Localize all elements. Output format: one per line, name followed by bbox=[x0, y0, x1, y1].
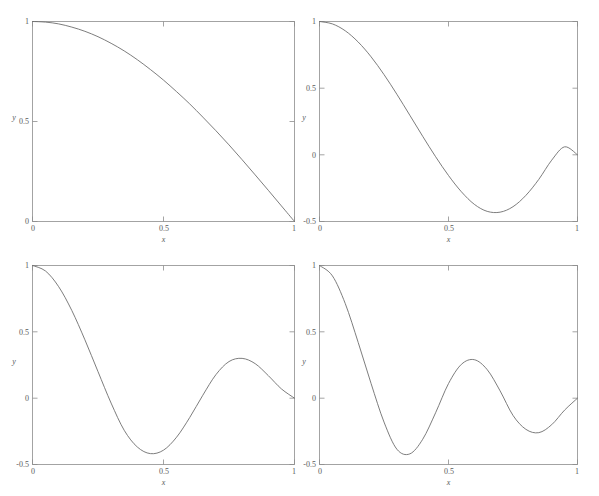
x-tick-label: 1 bbox=[575, 224, 579, 233]
y-tick-label: -0.5 bbox=[303, 460, 316, 469]
x-tick-label: 0 bbox=[318, 224, 322, 233]
y-tick-label: 1 bbox=[25, 17, 29, 26]
plot-svg-bottom-left: 1 0.5 0 -0.5 0 0.5 1 x y bbox=[0, 248, 299, 496]
x-tick-label: 1 bbox=[292, 224, 296, 233]
axes-frame bbox=[33, 22, 295, 222]
x-axis-label: x bbox=[446, 235, 451, 244]
x-tick-marks bbox=[320, 266, 578, 465]
data-curve bbox=[33, 266, 295, 454]
data-curve bbox=[320, 266, 578, 455]
y-tick-label: 0 bbox=[312, 394, 316, 403]
y-tick-marks bbox=[33, 22, 295, 222]
plot-svg-top-right: 1 0.5 0 -0.5 0 0.5 1 x y bbox=[299, 0, 599, 248]
y-axis-label: y bbox=[301, 113, 306, 122]
y-tick-label: 0 bbox=[25, 217, 29, 226]
x-tick-marks bbox=[33, 266, 295, 465]
y-tick-labels: 1 0.5 0 bbox=[19, 17, 29, 226]
plot-svg-top-left: 1 0.5 0 0 0.5 1 x y bbox=[0, 0, 299, 248]
axes-frame bbox=[320, 266, 578, 465]
x-tick-label: 0.5 bbox=[444, 224, 454, 233]
data-curve bbox=[320, 22, 578, 213]
data-curve bbox=[33, 22, 295, 222]
x-tick-marks bbox=[33, 22, 295, 222]
y-tick-label: 1 bbox=[312, 17, 316, 26]
x-tick-labels: 0 0.5 1 bbox=[318, 224, 579, 233]
x-tick-marks bbox=[320, 22, 578, 222]
y-tick-label: 0.5 bbox=[306, 84, 316, 93]
y-tick-marks bbox=[320, 266, 578, 465]
plot-svg-bottom-right: 1 0.5 0 -0.5 0 0.5 1 x y bbox=[299, 248, 599, 496]
plot-grid: 1 0.5 0 0 0.5 1 x y bbox=[0, 0, 599, 496]
x-tick-label: 0 bbox=[318, 467, 322, 476]
y-axis-label: y bbox=[11, 113, 16, 122]
y-axis-label: y bbox=[301, 357, 306, 366]
x-tick-labels: 0 0.5 1 bbox=[318, 467, 579, 476]
x-tick-label: 1 bbox=[292, 467, 296, 476]
y-tick-label: 0 bbox=[312, 151, 316, 160]
figure-canvas: { "figure": { "background_color": "#ffff… bbox=[0, 0, 599, 496]
panel-top-left: 1 0.5 0 0 0.5 1 x y bbox=[0, 0, 299, 248]
x-axis-label: x bbox=[161, 478, 166, 487]
y-tick-labels: 1 0.5 0 -0.5 bbox=[16, 261, 29, 469]
x-tick-label: 0.5 bbox=[159, 467, 169, 476]
x-tick-label: 0.5 bbox=[444, 467, 454, 476]
y-tick-label: 0.5 bbox=[306, 328, 316, 337]
axes-frame bbox=[33, 266, 295, 465]
x-tick-label: 0 bbox=[31, 467, 35, 476]
panel-top-right: 1 0.5 0 -0.5 0 0.5 1 x y bbox=[299, 0, 599, 248]
axes-frame bbox=[320, 22, 578, 222]
x-tick-label: 0 bbox=[31, 224, 35, 233]
y-tick-label: -0.5 bbox=[303, 217, 316, 226]
panel-bottom-left: 1 0.5 0 -0.5 0 0.5 1 x y bbox=[0, 248, 299, 496]
y-tick-label: 0 bbox=[25, 394, 29, 403]
y-axis-label: y bbox=[11, 357, 16, 366]
x-tick-labels: 0 0.5 1 bbox=[31, 224, 296, 233]
x-tick-label: 0.5 bbox=[159, 224, 169, 233]
y-tick-label: 0.5 bbox=[19, 328, 29, 337]
x-tick-labels: 0 0.5 1 bbox=[31, 467, 296, 476]
y-tick-marks bbox=[33, 266, 295, 465]
x-axis-label: x bbox=[161, 235, 166, 244]
y-tick-label: -0.5 bbox=[16, 460, 29, 469]
y-tick-marks bbox=[320, 22, 578, 222]
panel-bottom-right: 1 0.5 0 -0.5 0 0.5 1 x y bbox=[299, 248, 599, 496]
x-axis-label: x bbox=[446, 478, 451, 487]
y-tick-label: 0.5 bbox=[19, 117, 29, 126]
y-tick-label: 1 bbox=[312, 261, 316, 270]
x-tick-label: 1 bbox=[575, 467, 579, 476]
y-tick-label: 1 bbox=[25, 261, 29, 270]
